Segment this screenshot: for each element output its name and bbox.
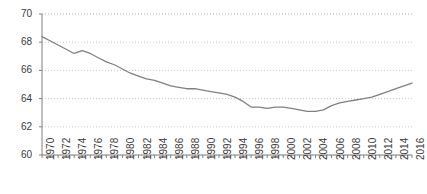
y-tick-label: 60 <box>6 150 32 160</box>
x-tick-label: 1996 <box>255 138 265 160</box>
x-tick-label: 2008 <box>352 138 362 160</box>
y-tick-label: 68 <box>6 37 32 47</box>
line-chart: 6062646668701970197219741976197819801982… <box>0 0 427 194</box>
x-tick-label: 2004 <box>319 138 329 160</box>
x-tick-label: 1974 <box>78 138 88 160</box>
x-tick-label: 1984 <box>159 138 169 160</box>
data-series-line <box>42 37 412 112</box>
x-tick-label: 1982 <box>143 138 153 160</box>
x-tick-label: 2016 <box>416 138 426 160</box>
chart-plot-area <box>0 0 427 194</box>
x-tick-label: 1992 <box>223 138 233 160</box>
y-tick-label: 70 <box>6 9 32 19</box>
x-tick-label: 1988 <box>191 138 201 160</box>
x-tick-label: 2012 <box>384 138 394 160</box>
x-tick-label: 2010 <box>368 138 378 160</box>
x-tick-label: 1990 <box>207 138 217 160</box>
x-tick-label: 1998 <box>271 138 281 160</box>
x-tick-label: 1978 <box>110 138 120 160</box>
x-tick-label: 1994 <box>239 138 249 160</box>
x-tick-label: 1976 <box>94 138 104 160</box>
x-tick-label: 2000 <box>287 138 297 160</box>
x-tick-label: 2002 <box>303 138 313 160</box>
x-tick-label: 1980 <box>126 138 136 160</box>
x-tick-label: 1986 <box>175 138 185 160</box>
y-tick-label: 64 <box>6 94 32 104</box>
y-tick-label: 62 <box>6 122 32 132</box>
x-tick-label: 2006 <box>336 138 346 160</box>
y-tick-label: 66 <box>6 65 32 75</box>
x-tick-label: 1970 <box>46 138 56 160</box>
x-tick-label: 1972 <box>62 138 72 160</box>
x-tick-label: 2014 <box>400 138 410 160</box>
